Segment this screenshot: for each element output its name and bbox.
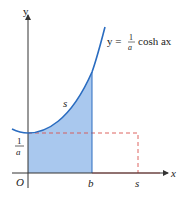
y-tick-den: a [16,147,21,157]
b-label: b [88,177,94,189]
equation-lhs: y = [107,35,121,47]
equation-rhs: cosh ax [138,35,172,47]
y-tick-num: 1 [17,136,22,146]
arc-length-label: s [63,97,67,109]
origin-label: O [16,176,24,188]
catenary-diagram: y x O b s s 1 a y = 1 a cosh ax [0,0,183,198]
equation-frac-den: a [128,43,132,52]
x-axis-label: x [170,167,176,179]
y-axis-label: y [23,5,29,17]
equation-frac-num: 1 [129,33,133,42]
shaded-area [28,72,92,173]
s-label: s [135,177,139,189]
